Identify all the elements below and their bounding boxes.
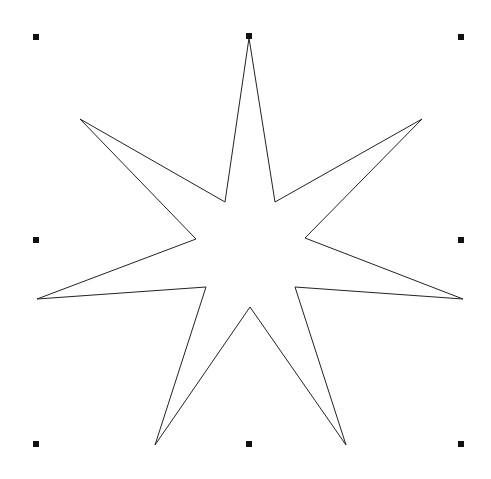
star-shape-svg[interactable] (0, 0, 491, 479)
resize-handle-middle-right[interactable] (458, 237, 464, 243)
drawing-canvas[interactable] (0, 0, 491, 479)
resize-handle-top-right[interactable] (458, 34, 464, 40)
resize-handle-bottom-left[interactable] (33, 441, 39, 447)
resize-handle-bottom-center[interactable] (246, 441, 252, 447)
resize-handle-top-center[interactable] (246, 33, 252, 39)
resize-handle-bottom-right[interactable] (458, 441, 464, 447)
star-shape[interactable] (37, 38, 463, 445)
resize-handle-middle-left[interactable] (33, 237, 39, 243)
resize-handle-top-left[interactable] (33, 34, 39, 40)
